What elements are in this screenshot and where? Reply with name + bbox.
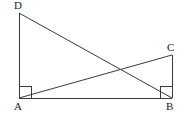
vertex-label-A: A [14,101,22,112]
vertex-label-C: C [167,42,174,53]
geometry-diagram [0,0,190,117]
segment-DB [19,13,172,98]
segment-AC [19,55,172,98]
vertex-label-D: D [14,0,22,11]
vertex-label-B: B [166,101,173,112]
geometry-figure: D C A B [0,0,190,117]
